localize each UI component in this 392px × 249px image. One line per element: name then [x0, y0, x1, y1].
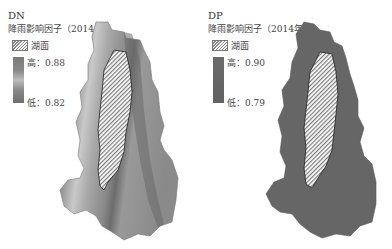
dn-watershed-map [0, 0, 196, 249]
dp-watershed-map [200, 0, 392, 249]
dn-map-panel: DN 降雨影响因子（2014年） 湖面 高：0.88 低：0.82 [0, 0, 196, 249]
dp-map-panel: DP 降雨影响因子（2014年） 湖面 高：0.90 低：0.79 [200, 0, 392, 249]
